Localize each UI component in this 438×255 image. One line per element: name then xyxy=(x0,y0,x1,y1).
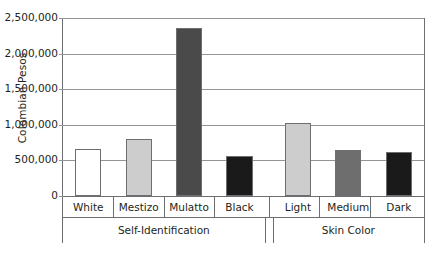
plot-area xyxy=(63,18,424,196)
group-label-skin-color: Skin Color xyxy=(273,218,424,243)
category-label-black: Black xyxy=(214,197,264,217)
bar-chart-figure: Colombian Pesos 2,500,0002,000,0001,500,… xyxy=(0,0,438,255)
group-label-self-identification: Self-Identification xyxy=(63,218,265,243)
category-separator xyxy=(214,197,215,217)
right-frame-line xyxy=(424,18,425,243)
bar-light xyxy=(285,123,311,196)
group-separator xyxy=(265,218,266,243)
y-axis-tick-label: 1,000,000 xyxy=(0,119,58,130)
category-separator xyxy=(319,197,320,217)
group-separator xyxy=(273,218,274,243)
y-axis-tick-label: 0 xyxy=(0,190,58,201)
bar-white xyxy=(75,149,101,196)
bar-mulatto xyxy=(176,28,202,196)
bar-black xyxy=(226,156,252,196)
category-separator xyxy=(164,197,165,217)
category-label-mulatto: Mulatto xyxy=(164,197,214,217)
bar-medium xyxy=(335,150,361,196)
category-separator xyxy=(269,197,270,217)
y-axis-tick-label: 1,500,000 xyxy=(0,83,58,94)
bar-series xyxy=(63,18,424,196)
y-axis-tick-label: 500,000 xyxy=(0,154,58,165)
category-label-medium: Medium xyxy=(323,197,373,217)
category-label-light: Light xyxy=(273,197,323,217)
category-axis-band: WhiteMestizoMulattoBlackLightMediumDark xyxy=(63,196,424,218)
category-label-mestizo: Mestizo xyxy=(113,197,163,217)
category-label-white: White xyxy=(63,197,113,217)
category-separator xyxy=(370,197,371,217)
bar-mestizo xyxy=(126,139,152,196)
category-label-dark: Dark xyxy=(374,197,424,217)
category-separator xyxy=(113,197,114,217)
group-axis-band: Self-IdentificationSkin Color xyxy=(63,218,424,243)
y-axis-tick-label: 2,000,000 xyxy=(0,48,58,59)
bar-dark xyxy=(386,152,412,197)
y-axis-tick-labels: 2,500,0002,000,0001,500,0001,000,000500,… xyxy=(0,0,58,255)
y-axis-tick-label: 2,500,000 xyxy=(0,12,58,23)
